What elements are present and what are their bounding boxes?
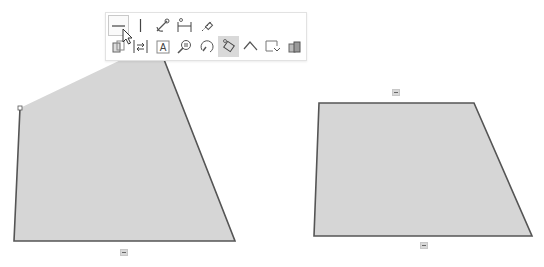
exit-sketch-icon: [264, 38, 281, 55]
select-chain-button[interactable]: [218, 36, 239, 57]
vertex-handle[interactable]: [18, 106, 22, 110]
construction-geometry-icon: [198, 17, 215, 34]
horizontal-relation-icon[interactable]: [392, 89, 400, 96]
select-chain-icon: [220, 38, 237, 55]
appearance-icon: [286, 38, 303, 55]
appearance-button[interactable]: [284, 36, 305, 57]
horizontal-relation-icon[interactable]: [120, 249, 128, 256]
exit-sketch-button[interactable]: [262, 36, 283, 57]
normal-to-icon: [198, 38, 215, 55]
construction-geometry-button[interactable]: [196, 15, 217, 36]
sketch-text-button[interactable]: A: [152, 36, 173, 57]
smart-dimension-icon: [176, 17, 193, 34]
normal-to-button[interactable]: [196, 36, 217, 57]
left-sketch-profile[interactable]: [14, 57, 235, 241]
smart-dimension-button[interactable]: [174, 15, 195, 36]
right-sketch-profile[interactable]: [314, 103, 532, 236]
sketch-text-icon: A: [154, 38, 171, 55]
mouse-pointer-icon: [122, 28, 136, 46]
zoom-selection-icon: [176, 38, 193, 55]
svg-text:A: A: [160, 42, 167, 53]
trim-icon: [242, 38, 259, 55]
trim-button[interactable]: [240, 36, 261, 57]
horizontal-relation-icon[interactable]: [420, 242, 428, 249]
fix-icon: [154, 17, 171, 34]
fix-button[interactable]: [152, 15, 173, 36]
zoom-selection-button[interactable]: [174, 36, 195, 57]
